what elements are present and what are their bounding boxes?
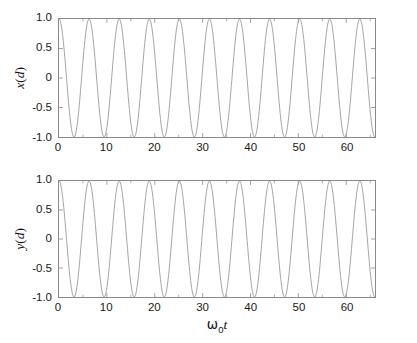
figure-canvas: -1.0-0.500.51.0 0102030405060 x(d) -1.0-… — [0, 0, 417, 343]
ytick-label: -0.5 — [32, 102, 52, 114]
curve-y — [59, 181, 375, 297]
xtick-label: 0 — [55, 142, 61, 154]
ytick-label: 0.5 — [36, 204, 52, 216]
ylabel-top-close-paren: ) — [12, 67, 27, 72]
ytick-label: 1.0 — [36, 174, 52, 186]
ytick-label: -1.0 — [32, 132, 52, 144]
subplot-y-plot-area — [59, 181, 375, 297]
ylabel-top-open-paren: ( — [12, 78, 27, 83]
ylabel-bottom-arg: d — [12, 232, 27, 239]
omega-symbol: ω — [207, 316, 218, 332]
xtick-label: 40 — [244, 142, 257, 154]
ytick-label: -0.5 — [32, 263, 52, 275]
ylabel-top-arg: d — [12, 71, 27, 78]
xtick-label: 50 — [293, 142, 306, 154]
x-axis-label: ω0t — [207, 318, 227, 334]
ytick-label: 1.0 — [36, 12, 52, 24]
curve-x — [59, 19, 375, 137]
ylabel-bottom-variable: y — [12, 244, 27, 250]
xtick-label: 10 — [100, 142, 113, 154]
time-variable: t — [223, 317, 227, 332]
ytick-label: 0 — [46, 233, 52, 245]
subplot-y-ylabel: y(d) — [13, 228, 27, 250]
xtick-label: 50 — [293, 302, 306, 314]
xtick-label: 60 — [341, 302, 354, 314]
ytick-label: 0 — [46, 72, 52, 84]
xtick-label: 20 — [148, 142, 161, 154]
xtick-label: 60 — [341, 142, 354, 154]
ytick-label: -1.0 — [32, 292, 52, 304]
xtick-label: 30 — [196, 142, 209, 154]
xtick-label: 0 — [55, 302, 61, 314]
subplot-x-plot-area — [59, 19, 375, 137]
ylabel-bottom-open-paren: ( — [12, 239, 27, 244]
subplot-y-axes — [58, 180, 376, 298]
xtick-label: 20 — [148, 302, 161, 314]
subplot-x-axes — [58, 18, 376, 138]
ytick-label: 0.5 — [36, 42, 52, 54]
xtick-label: 10 — [100, 302, 113, 314]
xtick-label: 40 — [244, 302, 257, 314]
ylabel-bottom-close-paren: ) — [12, 228, 27, 233]
xtick-label: 30 — [196, 302, 209, 314]
subplot-x-ylabel: x(d) — [13, 67, 27, 89]
ylabel-top-variable: x — [12, 83, 27, 89]
